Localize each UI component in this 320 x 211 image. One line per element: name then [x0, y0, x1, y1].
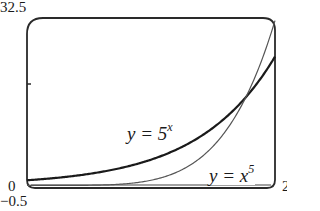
label-x-to-5: y = x5 — [208, 166, 255, 185]
label-5-to-x: y = 5x — [127, 124, 173, 143]
curve-5-to-x — [27, 57, 275, 181]
plot-frame — [27, 18, 275, 188]
